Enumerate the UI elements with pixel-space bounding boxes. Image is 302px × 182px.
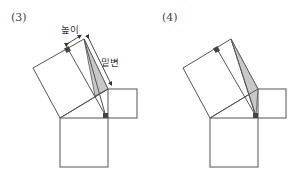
figure-3: (3) 높이 밑변: [11, 11, 137, 167]
base-label: 밑변: [101, 57, 119, 68]
figure-3-label: (3): [11, 11, 27, 24]
small-square: [258, 89, 286, 118]
bottom-square: [210, 118, 258, 167]
pythagoras-diagrams: (3) 높이 밑변 (4): [0, 0, 302, 182]
height-label: 높이: [61, 24, 79, 35]
small-square: [108, 89, 137, 118]
figure-4-label: (4): [162, 11, 178, 24]
right-angle-mark: [253, 113, 258, 118]
figure-4: (4): [162, 11, 286, 167]
right-angle-mark: [103, 113, 108, 118]
bottom-square: [60, 118, 108, 167]
